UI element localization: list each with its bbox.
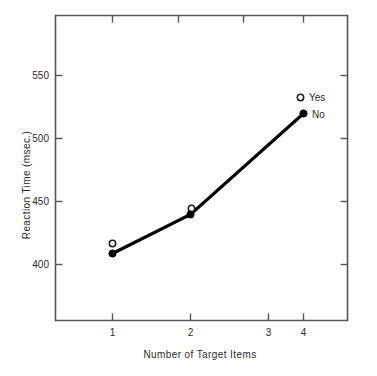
series-no-markers xyxy=(109,110,307,257)
series-yes-markers xyxy=(109,205,194,246)
data-point-no-2 xyxy=(187,211,194,218)
x-axis-title: Number of Target Items xyxy=(143,349,256,360)
data-point-no-4 xyxy=(300,110,307,117)
y-tick-label-550: 550 xyxy=(32,70,49,81)
legend-marker-yes-icon xyxy=(297,94,303,100)
legend-label-no: No xyxy=(312,109,325,120)
data-point-no-1 xyxy=(109,250,116,257)
y-tick-label-450: 450 xyxy=(32,196,49,207)
series-no-line xyxy=(113,114,304,254)
x-tick-label-3: 3 xyxy=(266,327,272,338)
y-axis-ticks-right xyxy=(341,76,348,265)
x-tick-labels: 1 2 3 4 xyxy=(110,327,307,338)
plot-frame xyxy=(56,16,348,321)
y-axis-ticks xyxy=(56,76,63,265)
x-tick-label-1: 1 xyxy=(110,327,116,338)
y-tick-label-400: 400 xyxy=(32,259,49,270)
chart-figure: 550 500 450 400 1 2 3 4 Number of Target… xyxy=(0,0,377,376)
data-point-yes-1 xyxy=(109,240,115,246)
reaction-time-line-chart: 550 500 450 400 1 2 3 4 Number of Target… xyxy=(0,0,377,376)
y-tick-label-500: 500 xyxy=(32,133,49,144)
y-tick-labels: 550 500 450 400 xyxy=(32,70,49,270)
x-axis-ticks-top xyxy=(113,16,304,23)
x-tick-label-2: 2 xyxy=(188,327,194,338)
y-axis-title: Reaction Time (msec.) xyxy=(21,131,32,239)
legend-label-yes: Yes xyxy=(309,92,325,103)
x-tick-label-4: 4 xyxy=(301,327,307,338)
x-axis-ticks xyxy=(113,314,304,321)
